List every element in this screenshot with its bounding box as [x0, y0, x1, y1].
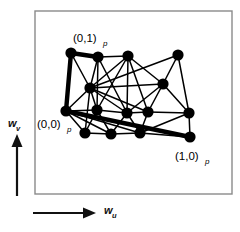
label-0-0: (0,0) — [37, 118, 61, 130]
node-corner-1-0 — [184, 131, 195, 142]
node-4 — [84, 82, 95, 93]
label-0-0-subscript: p — [66, 125, 72, 134]
node-9 — [142, 106, 153, 117]
node-2 — [122, 50, 133, 61]
u-axis-label-subscript: u — [112, 211, 117, 220]
graph-embedding-figure: w v w u (0,1)p(0,0)p(1,0)p — [0, 0, 240, 232]
node-3 — [172, 49, 183, 60]
node-7 — [91, 104, 102, 115]
node-12 — [105, 128, 116, 139]
node-10 — [183, 107, 194, 118]
label-0-1-subscript: p — [102, 39, 108, 48]
node-corner-0-0 — [60, 105, 71, 116]
figure-background — [0, 0, 240, 232]
graph-edge — [97, 57, 98, 110]
label-1-0-subscript: p — [204, 157, 210, 166]
label-0-1: (0,1) — [73, 32, 97, 44]
node-11 — [79, 127, 90, 138]
node-13 — [134, 127, 145, 138]
node-1 — [92, 51, 103, 62]
graph-edge — [148, 112, 189, 113]
figure-root: w v w u (0,1)p(0,0)p(1,0)p — [0, 0, 240, 232]
label-1-0: (1,0) — [175, 150, 199, 162]
node-8 — [121, 107, 132, 118]
node-corner-0-1 — [65, 47, 76, 58]
node-5 — [157, 78, 168, 89]
